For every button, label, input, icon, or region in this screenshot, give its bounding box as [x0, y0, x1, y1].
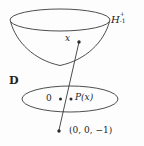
projected-point-dot [70, 98, 73, 101]
point-x-label: x [65, 34, 70, 43]
pole-label: (0, 0, −1) [69, 126, 112, 135]
hyperboloid-figure: H+-1 D 0 P(x) x (0, 0, −1) [0, 0, 144, 146]
hyperboloid-rim-ellipse [10, 9, 110, 31]
origin-label: 0 [46, 94, 52, 103]
disk-label: D [9, 75, 18, 86]
origin-dot [59, 98, 62, 101]
point-x-dot [77, 40, 80, 43]
hyperboloid-surface [10, 9, 110, 66]
hyperboloid-left-branch [11, 22, 61, 66]
hyperboloid-label-subscript: -1 [120, 18, 126, 24]
pole-dot [57, 129, 60, 132]
projected-point-label: P(x) [75, 93, 93, 102]
hyperboloid-label-indices: +-1 [120, 13, 127, 23]
hyperboloid-label: H+-1 [111, 13, 127, 25]
hyperboloid-right-branch [60, 22, 110, 66]
hyperboloid-label-base: H [111, 14, 120, 25]
